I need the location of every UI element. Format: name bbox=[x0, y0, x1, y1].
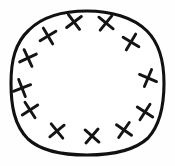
hand-drawn-figure bbox=[0, 0, 175, 166]
figure-canvas bbox=[0, 0, 175, 166]
